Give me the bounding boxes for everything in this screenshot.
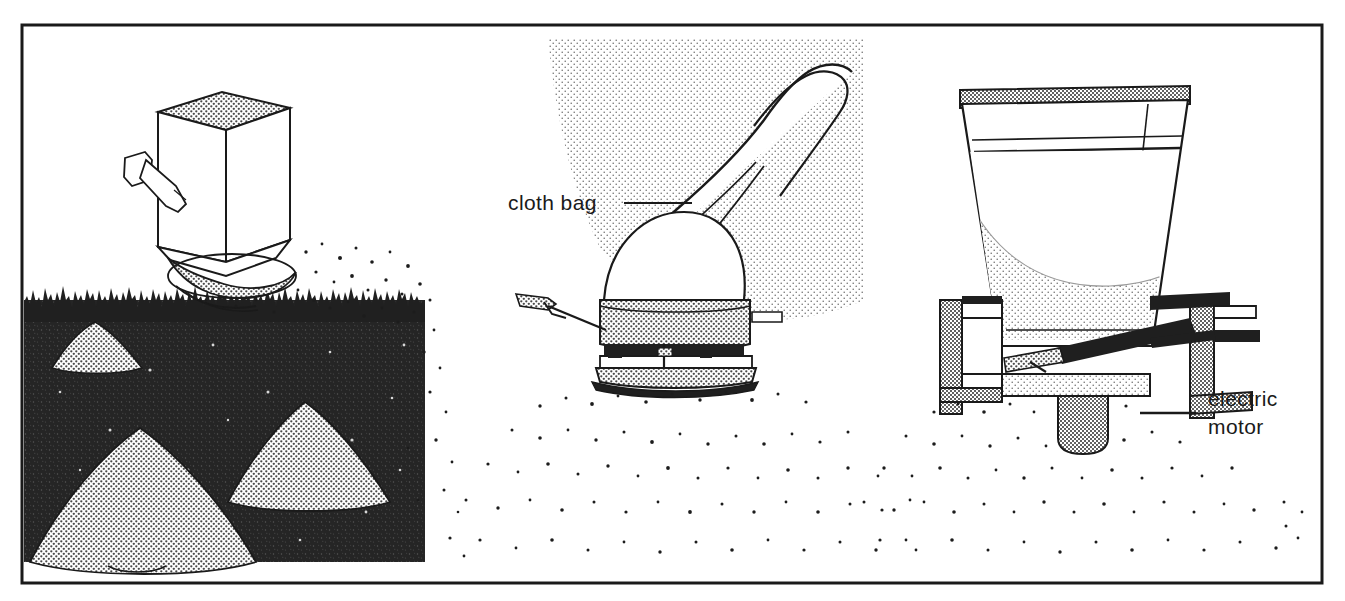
figure-stage: cloth bag electric motor — [0, 0, 1345, 601]
electric-motor-label-line2: motor — [1208, 415, 1264, 438]
panel-hopper-cutaway — [863, 86, 1304, 554]
hopper-band — [600, 300, 750, 350]
drop-spreader-body — [124, 92, 296, 311]
broadcast-particles-panel2 — [465, 391, 912, 554]
illustration-svg: cloth bag electric motor — [0, 0, 1345, 601]
cloth-bag-label-text: cloth bag — [508, 191, 597, 214]
panel-cloth-bag-spreader — [465, 38, 912, 554]
base-frame — [592, 344, 758, 398]
electric-motor — [1058, 396, 1108, 454]
panel-drop-spreader — [24, 92, 465, 574]
electric-motor-label-line1: electric — [1208, 387, 1278, 410]
